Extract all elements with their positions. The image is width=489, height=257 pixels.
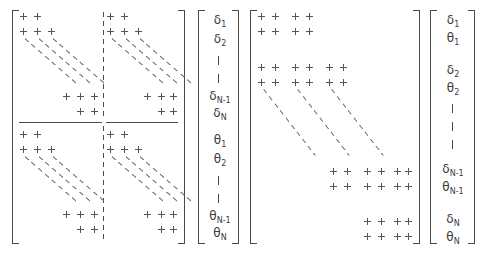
nonzero-mark xyxy=(158,226,165,233)
vector-entry-base: θ xyxy=(209,209,216,223)
nonzero-mark xyxy=(144,211,151,218)
nonzero-mark xyxy=(77,93,84,100)
left-matrix-open-bracket xyxy=(12,10,19,244)
nonzero-mark xyxy=(378,183,385,190)
vector-entry-sub: N-1 xyxy=(450,187,464,196)
diagonal-band-stroke xyxy=(125,38,180,86)
nonzero-mark xyxy=(20,146,27,153)
vector-entry-sub: 2 xyxy=(454,70,459,79)
diagonal-band-stroke xyxy=(52,38,107,86)
nonzero-mark xyxy=(364,233,371,240)
nonzero-mark xyxy=(306,28,313,35)
nonzero-mark xyxy=(344,168,351,175)
vector-entry-sub: 1 xyxy=(221,140,226,149)
right-vector-close-bracket xyxy=(468,10,475,244)
vector-entry-sub: N xyxy=(454,237,460,246)
nonzero-mark xyxy=(77,226,84,233)
vector-entry-base: δ xyxy=(442,162,449,176)
nonzero-mark xyxy=(272,13,279,20)
nonzero-mark xyxy=(258,28,265,35)
nonzero-mark xyxy=(48,28,55,35)
nonzero-mark xyxy=(292,13,299,20)
nonzero-mark xyxy=(258,79,265,86)
diagonal-band-stroke xyxy=(331,89,384,156)
vector-entry-sub: N-1 xyxy=(450,169,464,178)
vector-entry: θN-1 xyxy=(199,210,241,225)
nonzero-mark xyxy=(34,28,41,35)
vector-continuation-mark xyxy=(218,56,219,65)
nonzero-mark xyxy=(405,183,412,190)
vector-entry-sub: N-1 xyxy=(217,96,231,105)
nonzero-mark xyxy=(394,233,401,240)
nonzero-mark xyxy=(34,146,41,153)
vector-entry: δ1 xyxy=(437,14,469,29)
diagonal-band-stroke xyxy=(111,156,166,204)
vector-entry: δ1 xyxy=(205,14,235,29)
vector-entry: θN-1 xyxy=(430,181,476,196)
diagonal-band-stroke xyxy=(139,156,194,204)
vector-entry: δN xyxy=(437,213,469,228)
nonzero-mark xyxy=(91,93,98,100)
nonzero-mark xyxy=(135,28,142,35)
vector-entry: θ1 xyxy=(437,32,469,47)
nonzero-mark xyxy=(63,93,70,100)
vector-entry: δN xyxy=(205,107,235,122)
left-matrix-horizontal-partition-a xyxy=(19,122,102,123)
nonzero-mark xyxy=(394,218,401,225)
vector-entry-sub: 2 xyxy=(221,39,226,48)
nonzero-mark xyxy=(170,93,177,100)
vector-entry: δ2 xyxy=(205,33,235,48)
nonzero-mark xyxy=(378,168,385,175)
vector-entry-base: θ xyxy=(213,226,220,240)
nonzero-mark xyxy=(91,226,98,233)
diagonal-band-stroke xyxy=(52,156,107,204)
vector-entry-sub: 2 xyxy=(221,159,226,168)
nonzero-mark xyxy=(158,93,165,100)
diagonal-band-stroke xyxy=(24,156,79,204)
nonzero-mark xyxy=(48,146,55,153)
nonzero-mark xyxy=(272,28,279,35)
nonzero-mark xyxy=(378,233,385,240)
nonzero-mark xyxy=(272,79,279,86)
nonzero-mark xyxy=(292,28,299,35)
figure-canvas: δ1 δ2 δN-1 δN θ1 θ2 θN-1 θN xyxy=(0,0,489,257)
vector-entry: θ2 xyxy=(437,82,469,97)
nonzero-mark xyxy=(405,168,412,175)
vector-entry-sub: N xyxy=(221,233,227,242)
vector-entry-sub: 1 xyxy=(221,20,226,29)
nonzero-mark xyxy=(34,13,41,20)
nonzero-mark xyxy=(144,93,151,100)
nonzero-mark xyxy=(364,218,371,225)
nonzero-mark xyxy=(292,64,299,71)
vector-continuation-mark xyxy=(218,74,219,83)
nonzero-mark xyxy=(121,28,128,35)
nonzero-mark xyxy=(258,13,265,20)
nonzero-mark xyxy=(344,183,351,190)
nonzero-mark xyxy=(170,226,177,233)
diagonal-band-stroke xyxy=(38,38,93,86)
nonzero-mark xyxy=(272,64,279,71)
vector-entry-sub: 1 xyxy=(454,38,459,47)
vector-continuation-mark xyxy=(452,122,453,131)
vector-entry: θ1 xyxy=(205,134,235,149)
nonzero-mark xyxy=(258,64,265,71)
diagonal-band-stroke xyxy=(263,89,316,156)
vector-entry-sub: N-1 xyxy=(217,216,231,225)
nonzero-mark xyxy=(170,211,177,218)
nonzero-mark xyxy=(364,183,371,190)
diagonal-band-stroke xyxy=(111,38,166,86)
nonzero-mark xyxy=(306,64,313,71)
nonzero-mark xyxy=(326,79,333,86)
nonzero-mark xyxy=(107,13,114,20)
vector-entry: δN-1 xyxy=(199,90,241,105)
nonzero-mark xyxy=(20,28,27,35)
nonzero-mark xyxy=(306,13,313,20)
vector-continuation-mark xyxy=(452,104,453,113)
nonzero-mark xyxy=(394,168,401,175)
nonzero-mark xyxy=(326,64,333,71)
vector-entry-sub: N xyxy=(454,219,460,228)
nonzero-mark xyxy=(107,131,114,138)
diagonal-band-stroke xyxy=(297,89,350,156)
nonzero-mark xyxy=(121,13,128,20)
nonzero-mark xyxy=(121,131,128,138)
